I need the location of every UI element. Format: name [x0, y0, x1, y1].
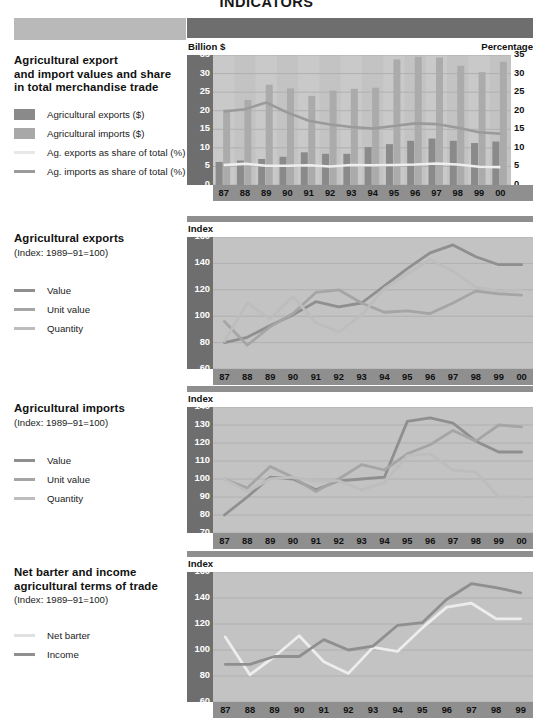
x-axis-tick-label: 94 — [379, 535, 389, 547]
legend-swatch-wrap — [14, 497, 47, 500]
y-axis-tick-label: 80 — [200, 671, 210, 680]
sidebar-panel-terms-of-trade: Net barter and income agricultural terms… — [14, 566, 186, 664]
chart-panel-ag-exports: Index 6080100120140160878889909192939495… — [187, 216, 533, 385]
y-axis-tick-label: 140 — [194, 259, 210, 268]
legend-item: Quantity — [14, 319, 186, 338]
x-axis-tick-label: 87 — [219, 371, 229, 383]
x-axis-tick-label: 89 — [269, 704, 279, 716]
y-axis-tick-label: 15 — [200, 125, 210, 134]
sidebar-title-ag-imports: Agricultural imports — [14, 402, 186, 416]
legend-color-line-icon — [14, 497, 35, 500]
y-axis-tick-label: 90 — [200, 492, 210, 501]
chart-panel-ag-imports: Index 7080901001101201301408788899091929… — [187, 386, 533, 549]
legend-terms-of-trade: Net barterIncome — [14, 626, 186, 664]
legend-item: Unit value — [14, 470, 186, 489]
y-axis-tick-label: 160 — [194, 232, 210, 241]
legend-color-line-icon — [14, 151, 35, 154]
y-axis-tick-label: 60 — [200, 364, 210, 373]
y-axis-tick-label: 120 — [194, 285, 210, 294]
legend-trade-values: Agricultural exports ($)Agricultural imp… — [14, 105, 186, 181]
sidebar-title-ag-exports: Agricultural exports — [14, 232, 186, 246]
legend-swatch-wrap — [14, 128, 47, 139]
x-axis-tick-label: 96 — [425, 371, 435, 383]
legend-swatch-wrap — [14, 289, 47, 292]
legend-item: Agricultural imports ($) — [14, 124, 186, 143]
y-axis-tick-label: 140 — [194, 593, 210, 602]
y-axis-tick-label: 130 — [194, 420, 210, 429]
y-axis-tick-label: 120 — [194, 619, 210, 628]
y-axis-right-tick-label: 35 — [514, 50, 524, 59]
x-axis-tick-label: 94 — [379, 371, 389, 383]
panel-header-bar — [187, 386, 533, 392]
legend-color-line-icon — [14, 634, 35, 637]
legend-item-label: Income — [47, 649, 79, 660]
x-axis-tick-label: 98 — [471, 371, 481, 383]
legend-item: Ag. exports as share of total (%) — [14, 143, 186, 162]
legend-item-label: Quantity — [47, 323, 83, 334]
panel-header-bar — [187, 216, 533, 222]
y-axis-right-tick-label: 20 — [514, 106, 524, 115]
x-axis-tick-label: 92 — [343, 704, 353, 716]
plot-area-terms-of-trade: 6080100120140160878889909192939495969798… — [187, 572, 533, 718]
legend-color-line-icon — [14, 170, 35, 173]
x-axis-tick-label: 98 — [471, 535, 481, 547]
legend-color-box-icon — [14, 109, 35, 120]
panel-header-bar — [187, 18, 533, 38]
sidebar-panel-ag-imports: Agricultural imports (Index: 1989–91=100… — [14, 402, 186, 508]
legend-swatch-wrap — [14, 151, 47, 154]
x-axis-tick-label: 95 — [402, 371, 412, 383]
x-axis-tick-label: 00 — [516, 535, 526, 547]
legend-color-line-icon — [14, 478, 35, 481]
y-axis-tick-label: 80 — [200, 338, 210, 347]
legend-swatch-wrap — [14, 459, 47, 462]
sidebar-title-trade-values: Agricultural export and import values an… — [14, 54, 186, 95]
x-axis-tick-label: 90 — [294, 704, 304, 716]
y-axis-right-tick-label: 10 — [514, 143, 524, 152]
legend-item: Unit value — [14, 300, 186, 319]
x-axis-tick-label: 99 — [516, 704, 526, 716]
x-axis-tick-label: 88 — [245, 704, 255, 716]
x-axis: 8788899091929394959697989900 — [213, 185, 533, 201]
x-axis: 8788899091929394959697989900 — [213, 369, 533, 385]
axis-unit-right: Percentage — [481, 41, 533, 52]
legend-color-line-icon — [14, 289, 35, 292]
x-axis-tick-label: 98 — [491, 704, 501, 716]
sidebar-accent-bar — [14, 18, 186, 40]
x-axis-tick-label: 96 — [410, 187, 420, 199]
plot-area-ag-imports: 7080901001101201301408788899091929394959… — [187, 407, 533, 549]
legend-item-label: Value — [47, 455, 71, 466]
x-axis: 8788899091929394959697989900 — [213, 533, 533, 549]
x-axis-tick-label: 88 — [242, 535, 252, 547]
y-axis-tick-label: 30 — [200, 69, 210, 78]
legend-swatch-wrap — [14, 109, 47, 120]
y-axis-left: 05101520253035 — [187, 55, 213, 185]
y-axis-left: 6080100120140160 — [187, 237, 213, 369]
x-axis-tick-label: 99 — [494, 535, 504, 547]
y-axis-tick-label: 140 — [194, 402, 210, 411]
x-axis-tick-label: 94 — [367, 187, 377, 199]
x-axis-tick-label: 91 — [304, 187, 314, 199]
y-axis-tick-label: 100 — [194, 312, 210, 321]
x-axis-tick-label: 92 — [325, 187, 335, 199]
panel-header-bar — [187, 551, 533, 557]
x-axis-tick-label: 88 — [242, 371, 252, 383]
sidebar-title-terms-of-trade: Net barter and income — [14, 566, 186, 580]
x-axis-tick-label: 88 — [240, 187, 250, 199]
plot-canvas — [213, 237, 533, 369]
plot-canvas — [213, 407, 533, 533]
y-axis-tick-label: 100 — [194, 645, 210, 654]
legend-item: Agricultural exports ($) — [14, 105, 186, 124]
figure-page: INDICATORS Agricultural export and impor… — [0, 0, 533, 719]
legend-color-line-icon — [14, 653, 35, 656]
y-axis-tick-label: 100 — [194, 474, 210, 483]
legend-item: Net barter — [14, 626, 186, 645]
plot-area-trade-values: 0510152025303505101520253035878889909192… — [187, 55, 533, 201]
y-axis-tick-label: 70 — [200, 528, 210, 537]
x-axis-tick-label: 87 — [219, 535, 229, 547]
plot-canvas — [213, 572, 533, 702]
x-axis-tick-label: 94 — [392, 704, 402, 716]
y-axis-left: 6080100120140160 — [187, 572, 213, 702]
x-axis-tick-label: 87 — [218, 187, 228, 199]
y-axis-tick-label: 25 — [200, 87, 210, 96]
legend-item-label: Unit value — [47, 474, 90, 485]
